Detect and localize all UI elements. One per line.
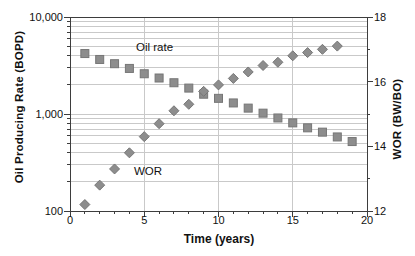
x-axis-tick-label: 20 (361, 214, 373, 226)
oil-rate-point (170, 79, 178, 87)
wor-point (273, 57, 283, 67)
x-axis-tick-label: 15 (287, 214, 299, 226)
right-axis-title: WOR (BW/BO) (391, 79, 403, 160)
oil-rate-series-label: Oil rate (136, 41, 173, 53)
oil-rate-point (185, 84, 193, 92)
oil-rate-point (96, 55, 104, 63)
wor-point (258, 61, 268, 71)
wor-point (214, 80, 224, 90)
oil-rate-point (304, 124, 312, 132)
oil-rate-point (333, 133, 341, 141)
left-axis-tick-label: 100 (45, 205, 63, 217)
x-axis-tick-label: 0 (67, 214, 73, 226)
oil-rate-point (348, 138, 356, 146)
oil-rate-point (274, 114, 282, 122)
right-axis-tick-label: 12 (374, 205, 386, 217)
oil-rate-point (259, 109, 267, 117)
oil-rate-point (318, 128, 326, 136)
right-axis-tick-label: 18 (374, 11, 386, 23)
oil-rate-point (155, 74, 163, 82)
oil-rate-point (125, 64, 133, 72)
right-axis-tick-label: 16 (374, 76, 386, 88)
right-axis-tick-label: 14 (374, 140, 386, 152)
wor-point (288, 51, 298, 61)
wor-point (332, 41, 342, 51)
wor-point (80, 200, 90, 210)
oil-rate-point (244, 104, 252, 112)
wor-point (124, 148, 134, 158)
wor-point (110, 164, 120, 174)
oil-rate-point (229, 99, 237, 107)
left-axis-title: Oil Producing Rate (BOPD) (13, 31, 25, 184)
wor-series-label: WOR (134, 165, 162, 177)
oil-rate-wor-chart: 1001,00010,0001214161805101520 Oil Produ… (0, 0, 415, 256)
wor-point (228, 73, 238, 83)
x-axis-tick-label: 5 (141, 214, 147, 226)
wor-point (139, 132, 149, 142)
oil-rate-point (289, 119, 297, 127)
oil-rate-point (111, 60, 119, 68)
wor-point (184, 99, 194, 109)
wor-point (154, 119, 164, 129)
oil-rate-point (215, 94, 223, 102)
left-axis-tick-label: 10,000 (29, 11, 63, 23)
x-axis-title: Time (years) (184, 232, 254, 246)
x-axis-tick-label: 10 (212, 214, 224, 226)
left-axis-tick-label: 1,000 (35, 108, 63, 120)
wor-point (243, 67, 253, 77)
oil-rate-point (140, 70, 148, 78)
oil-rate-point (81, 50, 89, 58)
plot-canvas: 1001,00010,0001214161805101520 (0, 0, 415, 256)
